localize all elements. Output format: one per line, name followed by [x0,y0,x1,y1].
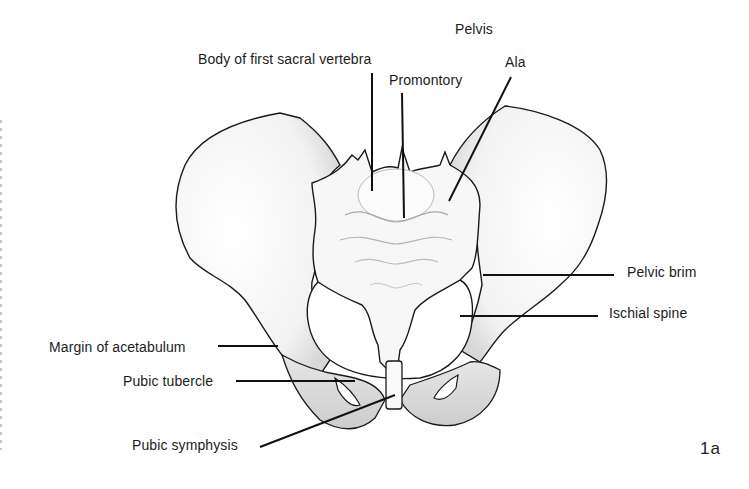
pelvis-illustration [0,0,749,489]
first-sacral-body [358,169,434,221]
label-pubic-tubercle: Pubic tubercle [123,373,213,389]
pubic-symphysis-disc [386,361,402,409]
label-pubic-symphysis: Pubic symphysis [132,437,238,453]
label-margin-of-acetabulum: Margin of acetabulum [49,339,186,355]
figure-number: 1a [700,439,721,459]
label-ischial-spine: Ischial spine [609,305,687,321]
pelvis-diagram: Pelvis Body of first sacral vertebra Pro… [0,0,749,489]
label-body-first-sacral-vertebra: Body of first sacral vertebra [198,51,371,67]
label-promontory: Promontory [389,72,462,88]
label-ala: Ala [505,54,526,70]
diagram-title: Pelvis [455,21,493,37]
label-pelvic-brim: Pelvic brim [627,264,697,280]
